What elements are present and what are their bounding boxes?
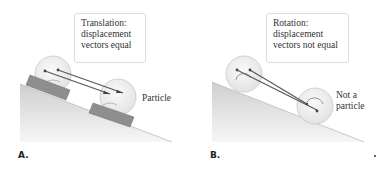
panel-rotation: Rotation: displacement vectors not equal… bbox=[192, 0, 384, 169]
stray-dot bbox=[374, 155, 376, 157]
particle-label: Particle bbox=[142, 93, 171, 104]
callout-line-1: Translation: bbox=[81, 18, 139, 29]
callout-line-1: Rotation: bbox=[273, 18, 342, 29]
panel-letter-a: A. bbox=[18, 150, 29, 160]
callout-line-2: displacement bbox=[81, 29, 139, 40]
side-label-line-1: Particle bbox=[142, 93, 171, 104]
translation-callout: Translation: displacement vectors equal bbox=[74, 13, 146, 63]
callout-line-3: vectors equal bbox=[81, 40, 139, 51]
not-a-particle-label: Not a particle bbox=[336, 90, 364, 112]
side-label-line-2: particle bbox=[336, 101, 364, 112]
panel-translation: Translation: displacement vectors equal … bbox=[0, 0, 192, 169]
side-label-line-1: Not a bbox=[336, 90, 364, 101]
callout-line-3: vectors not equal bbox=[273, 40, 342, 51]
panel-letter-b: B. bbox=[210, 150, 220, 160]
rotation-callout: Rotation: displacement vectors not equal bbox=[266, 13, 349, 63]
callout-line-2: displacement bbox=[273, 29, 342, 40]
disk-final bbox=[297, 88, 333, 124]
